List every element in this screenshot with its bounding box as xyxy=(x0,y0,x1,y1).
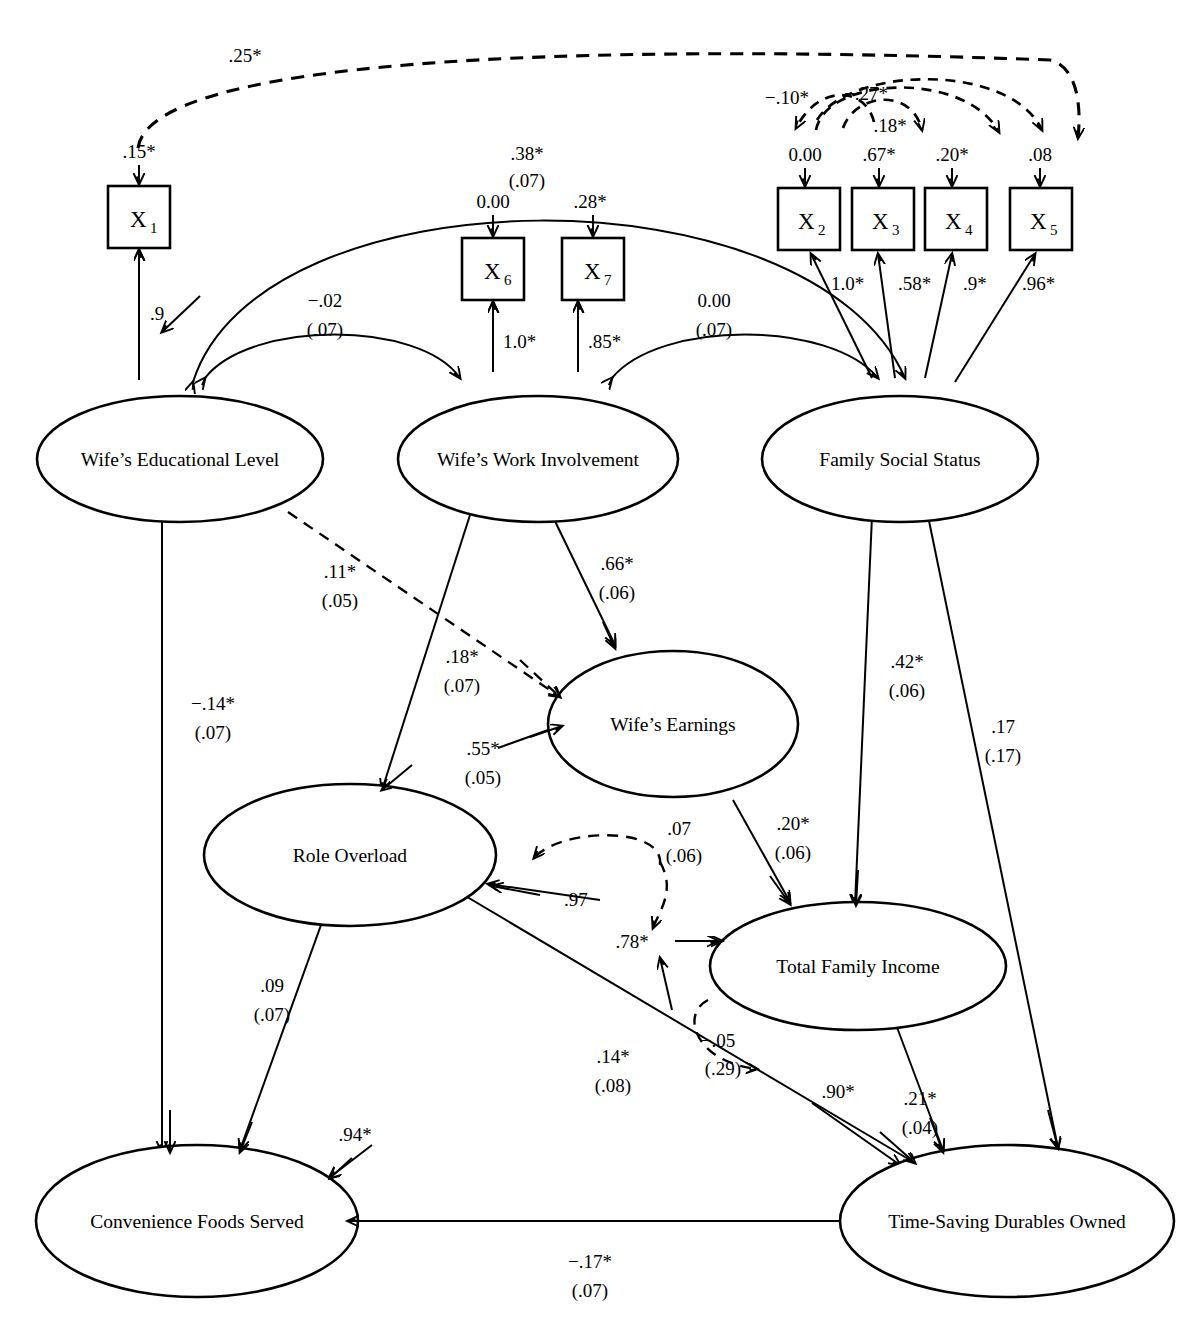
x7-subscript: 7 xyxy=(604,272,612,288)
label-path-work-role-est: .18* xyxy=(445,646,478,667)
latent-node-status: Family Social Status xyxy=(762,396,1038,522)
label-path-durables-food-se: (.07) xyxy=(572,1280,608,1302)
x2-subscript: 2 xyxy=(818,222,826,238)
label-path-income-durables-se: (.04) xyxy=(902,1117,938,1139)
x5-subscript: 5 xyxy=(1050,222,1058,238)
x5-label: X xyxy=(1030,209,1047,234)
head-edu-earn xyxy=(520,660,560,697)
label-cov-work-status-est: 0.00 xyxy=(697,290,730,311)
label-loading-x1: .9 xyxy=(150,303,164,324)
arrow-into-income-disturbance xyxy=(660,958,672,1010)
label-path-income-durables-est: .21* xyxy=(903,1088,936,1109)
observed-box-x4: X 4 xyxy=(925,188,987,250)
arc-work-status xyxy=(612,335,878,379)
x1-label: X xyxy=(130,207,147,232)
label-path-status-income-se: (.06) xyxy=(889,680,925,702)
label-disturbance-income: .78* xyxy=(615,931,648,952)
label-error-x5: .08 xyxy=(1028,144,1052,165)
latent-label-work: Wife’s Work Involvement xyxy=(437,449,640,470)
label-disturbance-earnings: .55* xyxy=(466,738,499,759)
label-error-x6: 0.00 xyxy=(476,191,509,212)
label-path-edu-food-est: −.14* xyxy=(191,693,235,714)
label-cov-income-durables-est: −.05 xyxy=(701,1030,735,1051)
label-loading-x7: .85* xyxy=(588,331,621,352)
label-path-earn-income-se: (.06) xyxy=(775,842,811,864)
x3-label: X xyxy=(872,209,889,234)
x2-label: X xyxy=(798,209,815,234)
label-path-role-durables-se: (.08) xyxy=(595,1075,631,1097)
x7-label: X xyxy=(584,259,601,284)
latent-node-durables: Time-Saving Durables Owned xyxy=(840,1145,1174,1297)
label-loading-x5: .96* xyxy=(1022,273,1055,294)
x4-label: X xyxy=(945,209,962,234)
head-earn-income xyxy=(770,876,790,904)
latent-label-income: Total Family Income xyxy=(776,956,939,977)
arc-role-income-b xyxy=(653,862,667,928)
label-path-edu-earn-se: (.05) xyxy=(322,590,358,612)
label-error-x7: .28* xyxy=(573,191,606,212)
label-disturbance-earnings-se: (.05) xyxy=(465,767,501,789)
latent-label-edu: Wife’s Educational Level xyxy=(81,449,280,470)
head-status-durables xyxy=(1048,1110,1058,1148)
label-disturbance-role: .97 xyxy=(564,889,588,910)
label-cov-edu-status-est: .38* xyxy=(510,143,543,164)
path-diagram-canvas: −.10* −.27* .18* .25* X 1 .15* .9 X 6 0.… xyxy=(0,0,1181,1334)
path-status-income xyxy=(855,516,872,905)
label-error-x2: 0.00 xyxy=(788,144,821,165)
head-work-earn xyxy=(603,622,615,648)
observed-box-x6: X 6 xyxy=(462,238,524,300)
label-path-edu-earn-est: .11* xyxy=(324,561,357,582)
error-covariance-arcs-small xyxy=(796,79,1042,132)
label-path-status-income-est: .42* xyxy=(890,651,923,672)
label-path-durables-food-est: −.17* xyxy=(568,1251,612,1272)
observed-box-x1: X 1 xyxy=(108,186,170,248)
latent-label-durables: Time-Saving Durables Owned xyxy=(888,1211,1126,1232)
label-error-x1: .15* xyxy=(122,141,155,162)
label-cov-edu-work-se: (.07) xyxy=(307,319,343,341)
path-role-food xyxy=(240,900,330,1150)
label-cov-role-income-se: (.06) xyxy=(666,845,702,867)
label-path-edu-food-se: (.07) xyxy=(195,722,231,744)
loading-arrow-x3 xyxy=(878,254,895,378)
label-path-role-food-se: (.07) xyxy=(254,1004,290,1026)
observed-box-x5: X 5 xyxy=(1010,188,1072,250)
x4-subscript: 4 xyxy=(965,222,973,238)
latent-node-earn: Wife’s Earnings xyxy=(548,651,798,797)
latent-label-food: Convenience Foods Served xyxy=(90,1211,304,1232)
label-path-work-earn-est: .66* xyxy=(600,553,633,574)
arc-edu-work xyxy=(205,335,460,379)
x3-subscript: 3 xyxy=(892,222,900,238)
label-error-x3: .67* xyxy=(862,144,895,165)
observed-box-x7: X 7 xyxy=(562,238,624,300)
latent-label-role: Role Overload xyxy=(293,845,408,866)
label-loading-x3: .58* xyxy=(898,273,931,294)
latent-label-status: Family Social Status xyxy=(819,449,980,470)
label-e2-e4: −.27* xyxy=(844,83,888,104)
path-status-durables xyxy=(928,516,1058,1148)
label-loading-x6: 1.0* xyxy=(503,331,536,352)
label-e1-e5: .25* xyxy=(228,45,261,66)
arc-e1-e5 xyxy=(138,54,1079,148)
label-cov-role-income-est: .07 xyxy=(667,818,691,839)
head-cov-edu-status-left xyxy=(162,296,200,332)
label-cov-edu-status-se: (.07) xyxy=(509,170,545,192)
latent-node-income: Total Family Income xyxy=(710,902,1006,1030)
label-path-work-earn-se: (.06) xyxy=(599,582,635,604)
latent-node-food: Convenience Foods Served xyxy=(36,1145,358,1297)
x6-subscript: 6 xyxy=(504,272,512,288)
latent-node-edu: Wife’s Educational Level xyxy=(37,396,323,522)
label-disturbance-food: .94* xyxy=(338,1124,371,1145)
latent-label-earn: Wife’s Earnings xyxy=(610,714,735,735)
observed-box-x3: X 3 xyxy=(852,188,914,250)
label-path-earn-income-est: .20* xyxy=(776,813,809,834)
label-cov-work-status-se: (.07) xyxy=(696,319,732,341)
label-path-status-durables-se: (.17) xyxy=(985,745,1021,767)
disturbance-arrow-durables xyxy=(812,1103,900,1165)
label-path-role-durables-est: .14* xyxy=(596,1046,629,1067)
x1-subscript: 1 xyxy=(150,220,158,236)
error-covariance-arcs xyxy=(138,54,1079,148)
label-loading-x4: .9* xyxy=(963,273,987,294)
label-disturbance-durables: .90* xyxy=(821,1081,854,1102)
label-cov-edu-work-est: −.02 xyxy=(308,290,342,311)
label-e2-e3: −.10* xyxy=(765,87,809,108)
